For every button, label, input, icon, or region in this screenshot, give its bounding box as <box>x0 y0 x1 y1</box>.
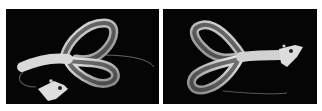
lure-photo-left <box>6 9 159 104</box>
lure-photo-right <box>163 9 317 104</box>
